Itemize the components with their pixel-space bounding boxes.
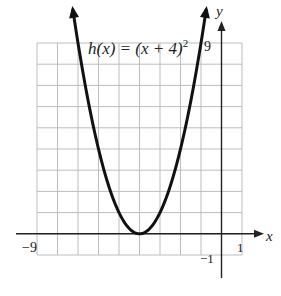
y-axis-arrow-icon (218, 21, 226, 31)
function-label: h(x) = (x + 4)2 (88, 37, 188, 58)
x-axis-label: x (265, 228, 273, 244)
y-axis-label: y (214, 3, 223, 19)
left-curve-arrow-icon (69, 6, 79, 19)
x-min-label: −9 (22, 240, 37, 255)
y-max-label: 9 (204, 39, 211, 54)
x-max-label: 1 (237, 240, 244, 255)
exponent-label: 2 (183, 37, 189, 49)
parabola-chart: h(x) = (x + 4)2 9 −9 −1 1 x y (0, 0, 281, 296)
right-curve-arrow-icon (200, 6, 210, 19)
grid (37, 43, 242, 255)
x-axis-arrow-icon (254, 230, 264, 238)
x-neg1-label: −1 (200, 251, 214, 266)
